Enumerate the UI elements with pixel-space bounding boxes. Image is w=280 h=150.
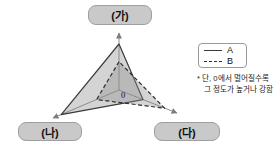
node-box-top: (가)	[88, 5, 152, 25]
legend-label-B: B	[227, 57, 233, 66]
node-box-bottom-left: (나)	[18, 122, 82, 141]
node-label-top: (가)	[111, 7, 128, 23]
origin-label: 0	[121, 90, 125, 100]
legend: A B	[198, 43, 247, 68]
node-label-bottom-right: (다)	[178, 124, 195, 140]
legend-label-A: A	[227, 46, 233, 55]
dashed-line-swatch	[204, 61, 222, 62]
solid-line-swatch	[204, 50, 222, 51]
footnote-line1: * 단, 0에서 멀어질수록	[197, 74, 269, 83]
legend-item-B: B	[204, 56, 241, 66]
radar-diagram: 0 (가) (나) (다) A B * 단, 0에서 멀어질수록 그 정도가 높…	[0, 0, 280, 150]
legend-item-A: A	[204, 45, 241, 55]
node-box-bottom-right: (다)	[154, 122, 220, 141]
node-label-bottom-left: (나)	[41, 124, 58, 140]
footnote: * 단, 0에서 멀어질수록 그 정도가 높거나 강함	[197, 73, 279, 96]
footnote-line2: 그 정도가 높거나 강함	[197, 84, 279, 95]
